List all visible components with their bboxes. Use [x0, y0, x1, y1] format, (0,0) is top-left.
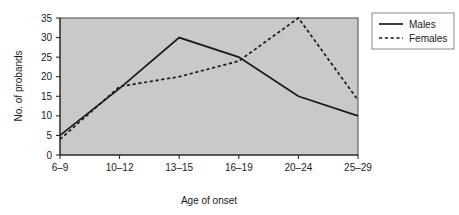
y-tick-label: 35 [41, 13, 53, 24]
chart-figure: 05101520253035 6–910–1213–1516–1920–2425… [0, 0, 459, 215]
y-tick-label: 10 [41, 110, 53, 121]
x-tick-label: 16–19 [225, 162, 253, 173]
y-axis-tick-labels: 05101520253035 [41, 13, 53, 161]
x-axis-title: Age of onset [181, 195, 237, 206]
y-axis-ticks [56, 18, 60, 155]
legend-label-females: Females [409, 33, 447, 44]
y-tick-label: 15 [41, 91, 53, 102]
legend: MalesFemales [372, 13, 454, 49]
y-axis-title: No. of probands [13, 50, 24, 121]
y-tick-label: 30 [41, 32, 53, 43]
x-axis-ticks [60, 155, 358, 159]
y-tick-label: 5 [46, 130, 52, 141]
y-tick-label: 25 [41, 52, 53, 63]
x-tick-label: 20–24 [284, 162, 312, 173]
x-axis-tick-labels: 6–910–1213–1516–1920–2425–29 [52, 162, 373, 173]
line-chart: 05101520253035 6–910–1213–1516–1920–2425… [0, 0, 459, 215]
y-tick-label: 0 [46, 150, 52, 161]
x-tick-label: 13–15 [165, 162, 193, 173]
y-tick-label: 20 [41, 71, 53, 82]
plot-area-background [60, 18, 358, 155]
legend-label-males: Males [409, 19, 436, 30]
x-tick-label: 25–29 [344, 162, 372, 173]
x-tick-label: 10–12 [106, 162, 134, 173]
x-tick-label: 6–9 [52, 162, 69, 173]
